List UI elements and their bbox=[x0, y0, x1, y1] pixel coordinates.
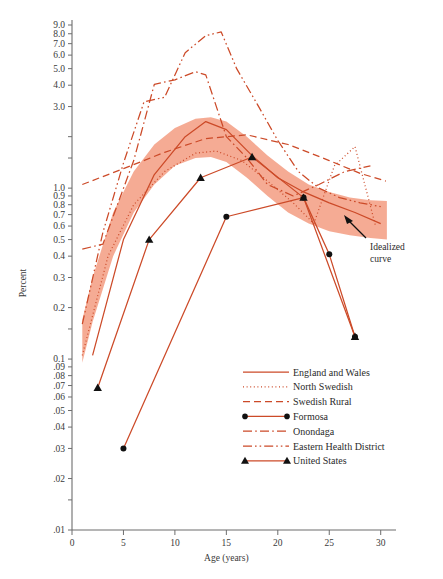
y-tick-label: 0.6 bbox=[53, 221, 65, 231]
legend-label-1[interactable]: North Swedish bbox=[293, 381, 353, 392]
x-tick-label: 10 bbox=[170, 538, 180, 548]
legend-marker-circle bbox=[242, 414, 248, 420]
y-tick-label: 0.8 bbox=[53, 200, 65, 210]
y-tick-label: 7.0 bbox=[53, 39, 65, 49]
legend-label-6[interactable]: United States bbox=[293, 455, 347, 466]
chart-container: 9.08.07.06.05.04.03.01.00.90.80.70.60.50… bbox=[0, 0, 443, 579]
legend-label-0[interactable]: England and Wales bbox=[293, 367, 370, 378]
legend-label-2[interactable]: Swedish Rural bbox=[293, 396, 352, 407]
y-tick-label: 5.0 bbox=[53, 64, 65, 74]
series-marker-triangle bbox=[196, 174, 204, 181]
legend-label-5[interactable]: Eastern Health District bbox=[293, 441, 385, 452]
series-marker-circle bbox=[326, 251, 332, 257]
y-tick-label: 6.0 bbox=[53, 50, 65, 60]
y-tick-label: 4.0 bbox=[53, 80, 65, 90]
legend-label-3[interactable]: Formosa bbox=[293, 411, 329, 422]
series-marker-circle bbox=[120, 445, 126, 451]
x-tick-label: 25 bbox=[325, 538, 335, 548]
legend-label-4[interactable]: Onondaga bbox=[293, 426, 335, 437]
y-tick-label: 0.3 bbox=[53, 273, 65, 283]
x-tick-label: 5 bbox=[121, 538, 126, 548]
y-tick-label: .08 bbox=[53, 371, 65, 381]
x-tick-label: 30 bbox=[376, 538, 386, 548]
idealized-curve-annotation-line1: Idealized bbox=[370, 242, 405, 252]
semilog-mortality-chart: 9.08.07.06.05.04.03.01.00.90.80.70.60.50… bbox=[0, 0, 443, 579]
idealized-curve-annotation-line2: curve bbox=[370, 254, 391, 264]
y-tick-label: .01 bbox=[53, 525, 65, 535]
x-tick-label: 0 bbox=[70, 538, 75, 548]
y-tick-label: .03 bbox=[53, 444, 65, 454]
y-tick-label: 8.0 bbox=[53, 29, 65, 39]
legend-marker-circle bbox=[284, 414, 290, 420]
y-tick-label: .05 bbox=[53, 406, 65, 416]
idealized-curve-band bbox=[82, 117, 387, 363]
y-tick-label: 0.2 bbox=[53, 303, 65, 313]
x-tick-label: 15 bbox=[222, 538, 232, 548]
y-tick-label: 3.0 bbox=[53, 102, 65, 112]
x-axis-title: Age (years) bbox=[204, 553, 249, 564]
y-axis-title: Percent bbox=[18, 268, 28, 297]
series-marker-circle bbox=[223, 214, 229, 220]
y-tick-label: .02 bbox=[53, 474, 65, 484]
y-tick-label: 0.5 bbox=[53, 235, 65, 245]
y-tick-label: .07 bbox=[53, 381, 65, 391]
y-tick-label: .06 bbox=[53, 392, 65, 402]
series-marker-triangle bbox=[94, 383, 102, 390]
x-tick-label: 20 bbox=[273, 538, 283, 548]
y-tick-label: .04 bbox=[53, 422, 65, 432]
y-tick-label: 0.4 bbox=[53, 251, 65, 261]
y-tick-label: 0.7 bbox=[53, 210, 65, 220]
